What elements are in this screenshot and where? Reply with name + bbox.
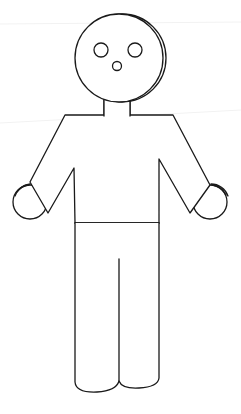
head <box>75 14 166 102</box>
legs <box>75 223 159 392</box>
torso-and-arms <box>30 100 210 223</box>
person-drawing <box>0 0 241 414</box>
